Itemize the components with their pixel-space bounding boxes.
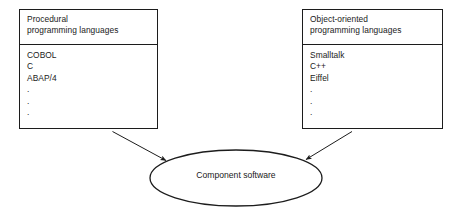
node-procedural-programming-languages: Procedural programming languages COBOL C… xyxy=(19,9,158,129)
list-continuation-dot: . xyxy=(310,96,442,108)
list-item: C xyxy=(27,61,157,72)
list-continuation-dot: . xyxy=(27,107,157,119)
node-object-oriented-programming-languages: Object-oriented programming languages Sm… xyxy=(302,9,443,129)
node-procedural-body: COBOL C ABAP/4 . . . xyxy=(20,45,157,119)
list-continuation-dot: . xyxy=(310,107,442,119)
node-procedural-header-line-2: programming languages xyxy=(27,25,157,36)
node-procedural-header-line-1: Procedural xyxy=(27,14,157,25)
list-item: ABAP/4 xyxy=(27,73,157,84)
node-object-oriented-header-line-1: Object-oriented xyxy=(310,14,442,25)
diagram-canvas: Procedural programming languages COBOL C… xyxy=(0,0,461,219)
node-object-oriented-header: Object-oriented programming languages xyxy=(303,10,442,45)
node-object-oriented-header-line-2: programming languages xyxy=(310,25,442,36)
component-software-label: Component software xyxy=(150,169,322,181)
list-item: Smalltalk xyxy=(310,50,442,61)
node-object-oriented-body: Smalltalk C++ Eiffel . . . xyxy=(303,45,442,119)
node-procedural-header: Procedural programming languages xyxy=(20,10,157,45)
arrow-procedural-to-component xyxy=(113,132,167,161)
list-continuation-dot: . xyxy=(310,84,442,96)
list-continuation-dot: . xyxy=(27,84,157,96)
list-item: Eiffel xyxy=(310,73,442,84)
list-item: COBOL xyxy=(27,50,157,61)
arrow-oop-to-component xyxy=(306,132,352,160)
list-item: C++ xyxy=(310,61,442,72)
list-continuation-dot: . xyxy=(27,96,157,108)
